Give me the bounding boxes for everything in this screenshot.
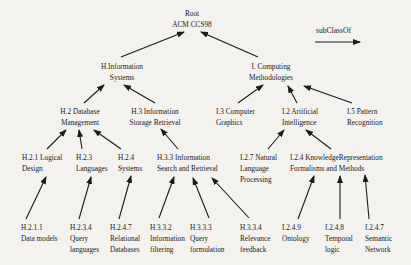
subclassof-arrow-i249-ontology-to-i24-knowledge-representation — [298, 176, 314, 219]
node-h334-relevance-feedback: H.3.3.4Relevancefeedback — [240, 222, 270, 255]
node-label-line: Databases — [110, 244, 140, 255]
node-label-line: Ontology — [282, 233, 310, 244]
node-i249-ontology: I.2.4.9Ontology — [282, 222, 310, 244]
subclassof-arrow-h23-languages-to-h2-database-management — [79, 130, 82, 149]
node-label-line: I.5 Pattern — [347, 106, 383, 117]
node-label-line: I.2.4.8 — [325, 222, 353, 233]
node-label-line: H.2.3.4 — [70, 222, 99, 233]
node-label-line: H.2.1 Logical — [22, 152, 62, 163]
node-label-line: Query — [190, 233, 224, 244]
subclassof-arrow-i247-semantic-network-to-i24-knowledge-representation — [365, 175, 369, 219]
subclassof-arrow-h234-query-languages-to-h23-languages — [79, 177, 91, 219]
node-h-information-systems: H.InformationSystems — [101, 61, 143, 83]
node-label-line: logic — [325, 244, 353, 255]
node-i247-semantic-network: I.2.4.7SemanticNetwork — [365, 222, 392, 255]
node-i3-computer-graphics: I.3 ComputerGraphics — [216, 106, 255, 128]
node-h24-systems: H.2.4Systems — [118, 152, 142, 174]
node-label-line: H.3.3.2 — [150, 222, 185, 233]
node-h2111-data-models: H.2.1.1Data models — [21, 222, 58, 244]
node-label-line: Management — [60, 117, 99, 128]
subclassof-arrow-h2111-data-models-to-h21-logical-design — [26, 177, 46, 219]
node-label-line: I.2.4.7 — [365, 222, 392, 233]
node-label-line: H.3.3.4 — [240, 222, 270, 233]
node-label-line: Information — [150, 233, 185, 244]
node-label-line: Processing — [240, 174, 277, 185]
node-label-line: Systems — [118, 163, 142, 174]
node-h332-information-filtering: H.3.3.2Informationfiltering — [150, 222, 185, 255]
node-label-line: I.3 Computer — [216, 106, 255, 117]
node-label-line: Data models — [21, 233, 58, 244]
node-label-line: ACM CCS98 — [172, 19, 212, 30]
subclassof-arrow-h21-logical-design-to-h2-database-management — [47, 130, 66, 149]
node-label-line: Methodologies — [249, 72, 293, 83]
node-h33-information-search-retrieval: H.3.3 InformationSearch and Retrieval — [157, 152, 218, 174]
node-label-line: I.2.7 Natural — [240, 152, 277, 163]
subclassof-arrow-h-information-systems-to-root — [121, 32, 184, 57]
node-label-line: formulation — [190, 244, 224, 255]
node-label-line: H.Information — [101, 61, 143, 72]
subclassof-arrow-h3-information-storage-retrieval-to-h-information-systems — [124, 85, 155, 103]
node-label-line: Systems — [101, 72, 143, 83]
node-label-line: languages — [70, 244, 99, 255]
node-label-line: Intelligence — [282, 117, 318, 128]
node-h23-languages: H.2.3Languages — [76, 152, 108, 174]
taxonomy-diagram: RootACM CCS98H.InformationSystemsI. Comp… — [0, 0, 411, 265]
node-label-line: I.2 Artificial — [282, 106, 318, 117]
subclassof-arrow-h33-information-search-retrieval-to-h3-information-storage-retrieval — [161, 129, 178, 149]
node-root: RootACM CCS98 — [172, 8, 212, 30]
node-label-line: H.3 Information — [130, 106, 181, 117]
node-label-line: filtering — [150, 244, 185, 255]
subclassof-arrow-h2-database-management-to-h-information-systems — [84, 85, 104, 103]
node-label-line: H.2.1.1 — [21, 222, 58, 233]
node-label-line: Relevance — [240, 233, 270, 244]
node-h3-information-storage-retrieval: H.3 InformationStorage Retrieval — [130, 106, 181, 128]
node-label-line: I.2.4.9 — [282, 222, 310, 233]
node-label-line: H.3.3 Information — [157, 152, 218, 163]
subclassof-arrow-h247-relational-databases-to-h24-systems — [119, 176, 131, 219]
node-label-line: H.2.4 — [118, 152, 142, 163]
node-i2-artificial-intelligence: I.2 ArtificialIntelligence — [282, 106, 318, 128]
node-label-line: Search and Retrieval — [157, 163, 218, 174]
node-i27-natural-language-processing: I.2.7 NaturalLanguageProcessing — [240, 152, 277, 185]
node-label-line: Network — [365, 244, 392, 255]
node-label-line: Formalisms and Methods — [290, 163, 383, 174]
node-label-line: H.2.4.7 — [110, 222, 140, 233]
node-label-line: Relational — [110, 233, 140, 244]
subclassof-arrow-i3-computer-graphics-to-i-computing-methodologies — [238, 85, 263, 103]
subclassof-arrow-h332-information-filtering-to-h33-information-search-retrieval — [159, 177, 174, 218]
subclassof-arrow-i27-natural-language-processing-to-i2-artificial-intelligence — [268, 130, 284, 149]
node-i-computing-methodologies: I. ComputingMethodologies — [249, 61, 293, 83]
node-label-line: Temporal — [325, 233, 353, 244]
node-h333-query-formulation: H.3.3.3Queryformulation — [190, 222, 224, 255]
node-i248-temporal-logic: I.2.4.8Temporallogic — [325, 222, 353, 255]
node-label-line: Graphics — [216, 117, 255, 128]
node-label-line: Query — [70, 233, 99, 244]
node-label-line: H.2.3 — [76, 152, 108, 163]
node-label-line: Semantic — [365, 233, 392, 244]
node-h234-query-languages: H.2.3.4Querylanguages — [70, 222, 99, 255]
node-label-line: Design — [22, 163, 62, 174]
node-h2-database-management: H.2 DatabaseManagement — [60, 106, 99, 128]
node-label-line: H.2 Database — [60, 106, 99, 117]
subclassof-arrow-h333-query-formulation-to-h33-information-search-retrieval — [193, 178, 209, 218]
subclassof-arrow-i2-artificial-intelligence-to-i-computing-methodologies — [288, 86, 297, 103]
node-i5-pattern-recognition: I.5 PatternRecognition — [347, 106, 383, 128]
node-label-line: feedback — [240, 244, 270, 255]
subclassof-arrow-h24-systems-to-h2-database-management — [94, 130, 121, 149]
node-label-line: Language — [240, 163, 277, 174]
node-label-line: Root — [172, 8, 212, 19]
node-label-line: I. Computing — [249, 61, 293, 72]
subclassof-arrow-i5-pattern-recognition-to-i-computing-methodologies — [304, 86, 352, 103]
node-label-line: Recognition — [347, 117, 383, 128]
node-label-line: Languages — [76, 163, 108, 174]
node-label-line: H.3.3.3 — [190, 222, 224, 233]
subclassof-arrow-i-computing-methodologies-to-root — [201, 32, 258, 57]
node-i24-knowledge-representation: I.2.4 KnowledgeRepresentationFormalisms … — [290, 152, 383, 174]
node-h247-relational-databases: H.2.4.7RelationalDatabases — [110, 222, 140, 255]
node-label-line: Storage Retrieval — [130, 117, 181, 128]
legend-label: subClassOf — [316, 25, 351, 36]
node-h21-logical-design: H.2.1 LogicalDesign — [22, 152, 62, 174]
node-label-line: I.2.4 KnowledgeRepresentation — [290, 152, 383, 163]
subclassof-arrow-i24-knowledge-representation-to-i2-artificial-intelligence — [306, 130, 331, 149]
